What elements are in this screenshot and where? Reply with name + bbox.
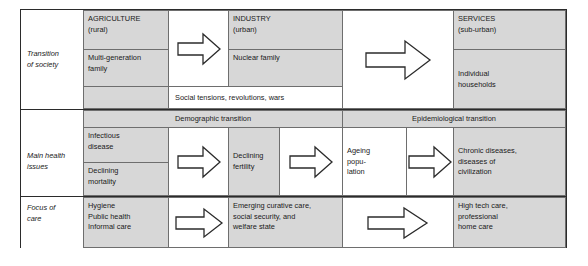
arrow-ageing-to-chronic <box>406 127 454 196</box>
band-spacer-left <box>21 110 83 128</box>
cell-industry: INDUSTRY (urban) <box>228 10 343 50</box>
arrow-mortality-to-fertility <box>168 127 229 196</box>
cell-nuclear-family: Nuclear family <box>228 49 343 87</box>
cell-hygiene-public-health: Hygiene Public health Informal care <box>83 197 169 248</box>
transition-diagram: Transition of society AGRICULTURE (rural… <box>20 9 567 248</box>
arrow-industry-to-services <box>342 10 454 109</box>
arrow-agriculture-to-industry <box>168 10 229 87</box>
cell-services: SERVICES (sub-urban) <box>453 10 566 50</box>
row-label-health: Main health issues <box>21 127 83 196</box>
cell-social-tensions: Social tensions, revolutions, wars <box>168 86 343 109</box>
row-label-society: Transition of society <box>21 10 83 109</box>
arrow-curative-to-hightech <box>342 197 454 248</box>
right-arrow-icon <box>288 145 334 179</box>
right-arrow-icon <box>176 145 222 179</box>
right-arrow-icon <box>174 207 224 239</box>
arrow-fertility-to-ageing <box>279 127 343 196</box>
cell-agriculture-filler <box>83 86 169 109</box>
right-arrow-icon <box>176 32 222 66</box>
row-label-care: Focus of care <box>21 197 83 248</box>
cell-infectious-disease: Infectious disease <box>83 127 169 163</box>
right-arrow-icon <box>363 38 433 82</box>
cell-high-tech-care: High tech care, professional home care <box>453 197 566 248</box>
band-demographic-transition: Demographic transition <box>83 110 343 128</box>
cell-ageing-population: Ageing popu- lation <box>342 127 407 196</box>
cell-individual-households: Individual households <box>453 49 566 109</box>
right-arrow-icon <box>366 205 430 241</box>
cell-declining-fertility: Declining fertility <box>228 127 280 196</box>
cell-agriculture: AGRICULTURE (rural) <box>83 10 169 50</box>
arrow-hygiene-to-curative <box>168 197 229 248</box>
cell-chronic-diseases: Chronic diseases, diseases of civilizati… <box>453 127 566 196</box>
cell-declining-mortality: Declining mortality <box>83 162 169 196</box>
cell-emerging-curative-care: Emerging curative care, social security,… <box>228 197 343 248</box>
right-arrow-icon <box>407 145 453 179</box>
band-epidemiological-transition: Epidemiological transition <box>342 110 566 128</box>
cell-multigeneration-family: Multi-generation family <box>83 49 169 87</box>
